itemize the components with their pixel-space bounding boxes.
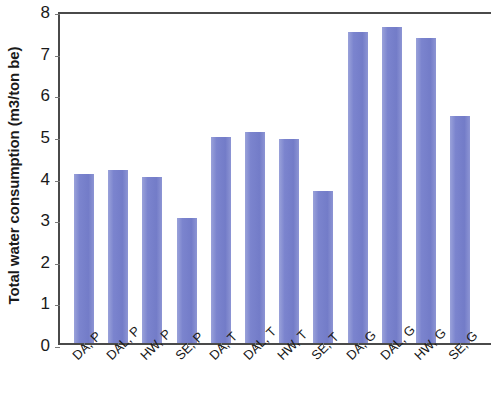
y-axis-tick-mark	[55, 222, 60, 223]
y-axis-tick-label: 3	[41, 212, 50, 229]
bar	[313, 191, 333, 343]
y-axis-tick-label: 0	[41, 337, 50, 354]
bar	[108, 170, 128, 343]
y-axis-tick-mark	[55, 14, 60, 15]
y-axis-tick-label: 6	[41, 87, 50, 104]
x-axis-tick-labels: DA, PDAL, PHW, PSE, PDA, TDAL, THW, TSE,…	[58, 345, 491, 399]
y-axis-tick-mark	[55, 305, 60, 306]
bar	[416, 38, 436, 343]
bar	[382, 27, 402, 343]
bar	[74, 174, 94, 343]
bar-chart: Total water consumption (m3/ton be) 8765…	[0, 0, 491, 399]
y-axis-tick-mark	[55, 264, 60, 265]
bar	[450, 116, 470, 343]
y-axis-tick-mark	[55, 97, 60, 98]
y-axis-tick-label: 2	[41, 253, 50, 270]
bar	[348, 32, 368, 343]
y-axis-tick-label: 4	[41, 170, 50, 187]
y-axis-title-text: Total water consumption (m3/ton be)	[6, 46, 23, 304]
bars-layer	[60, 14, 491, 343]
bar	[211, 137, 231, 343]
y-axis-tick-label: 7	[41, 45, 50, 62]
bar	[279, 139, 299, 343]
y-axis-tick-label: 8	[41, 4, 50, 21]
bar	[142, 177, 162, 343]
y-axis-tick-mark	[55, 56, 60, 57]
bar	[245, 132, 265, 343]
plot-area	[58, 12, 491, 345]
bar	[177, 218, 197, 343]
y-axis-tick-label: 1	[41, 295, 50, 312]
y-axis-tick-mark	[55, 181, 60, 182]
y-axis-title: Total water consumption (m3/ton be)	[0, 0, 28, 350]
y-axis-tick-mark	[55, 139, 60, 140]
y-axis-tick-label: 5	[41, 128, 50, 145]
y-axis-tick-labels: 876543210	[26, 0, 54, 399]
